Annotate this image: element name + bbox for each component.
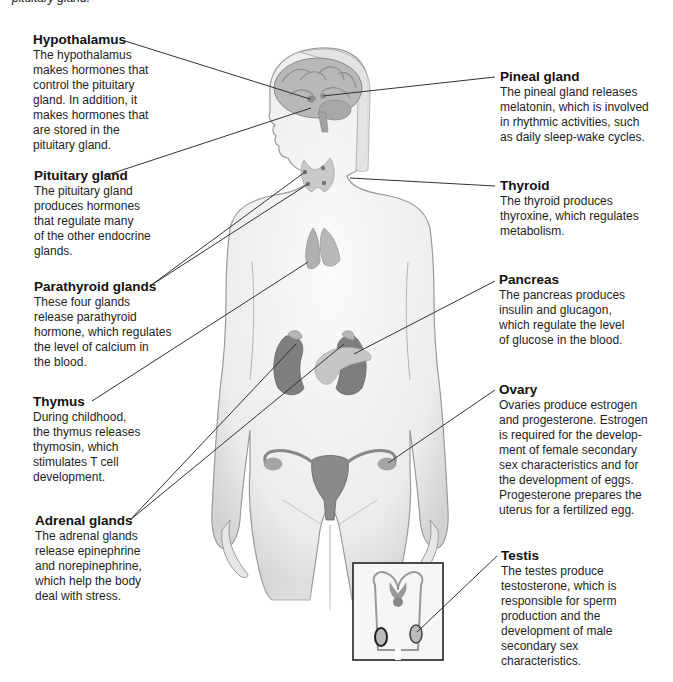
label-hypothalamus: Hypothalamus The hypothalamus makes horm… — [33, 32, 183, 153]
testis-inset — [353, 563, 443, 660]
label-adrenal-glands: Adrenal glands The adrenal glands releas… — [35, 513, 185, 604]
label-parathyroid-glands: Parathyroid glands These four glands rel… — [34, 279, 194, 370]
label-pancreas: Pancreas The pancreas produces insulin a… — [499, 272, 669, 348]
label-thyroid: Thyroid The thyroid produces thyroxine, … — [500, 178, 670, 239]
label-thymus: Thymus During childhood, the thymus rele… — [33, 394, 183, 485]
label-pituitary-gland: Pituitary gland The pituitary gland prod… — [34, 168, 184, 259]
label-title: Hypothalamus — [33, 32, 183, 48]
label-pineal-gland: Pineal gland The pineal gland releases m… — [500, 69, 670, 145]
label-ovary: Ovary Ovaries produce estrogen and proge… — [499, 382, 671, 518]
label-testis: Testis The testes produce testosterone, … — [501, 548, 671, 669]
leader-thyroid — [350, 178, 495, 186]
